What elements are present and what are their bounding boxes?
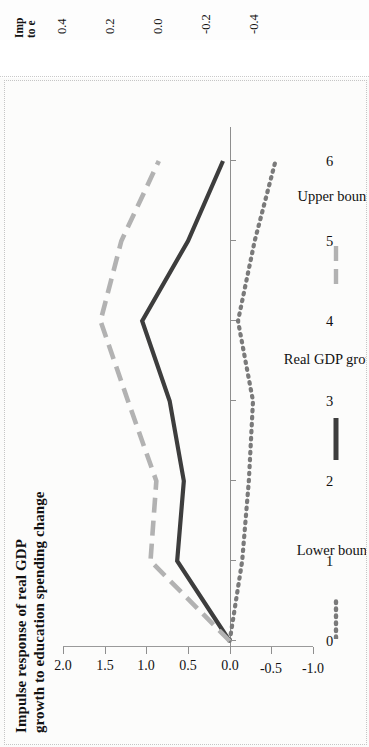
top-chart-ytick-1: 0.2	[103, 18, 118, 34]
value-axis-tick-0	[63, 647, 64, 654]
time-axis-tick-2	[230, 480, 236, 481]
legend-label-0: Lower bound	[327, 511, 344, 589]
chart-title-line2: growth to education spending change	[31, 491, 49, 733]
value-axis-tick-2	[146, 647, 147, 654]
value-axis-label-text-5: -0.5	[260, 661, 282, 677]
time-axis-tick-6	[230, 160, 236, 161]
top-chart-ytick-0: 0.4	[55, 18, 70, 34]
main-chart-figure: Impulse response of real GDP growth to e…	[4, 80, 367, 745]
time-axis-tick-1	[230, 560, 236, 561]
value-axis-label-text-2: 1.0	[138, 659, 156, 675]
value-axis-label-text-0: 2.0	[54, 659, 72, 675]
top-cropped-chart: Imp to e 0.40.20.0-0.2-0.4	[0, 0, 369, 41]
top-chart-inner: Imp to e 0.40.20.0-0.2-0.4	[0, 0, 369, 40]
time-axis-tick-3	[230, 400, 236, 401]
series-layer	[63, 127, 313, 647]
time-axis-tick-0	[230, 640, 236, 641]
top-chart-ytick-4: -0.4	[247, 14, 262, 34]
value-axis-tick-1	[105, 647, 106, 654]
page-divider	[0, 76, 369, 77]
top-chart-title-line1: Imp	[13, 18, 26, 38]
top-chart-ytick-2: 0.0	[151, 18, 166, 34]
value-axis-label-4: 0.0	[222, 658, 238, 676]
rotated-chart-stage: Impulse response of real GDP growth to e…	[9, 91, 361, 739]
series-line-upper-bound	[101, 161, 230, 641]
legend-item-lower-bound: Lower bound	[327, 511, 344, 639]
plot-area: 2.01.51.00.50.0-0.5-1.00123456	[63, 127, 313, 647]
top-chart-ytick-3: -0.2	[199, 14, 214, 34]
value-axis-tick-4	[230, 647, 231, 654]
chart-title: Impulse response of real GDP growth to e…	[13, 491, 48, 733]
value-axis-tick-5	[271, 647, 272, 654]
page-gap	[0, 40, 369, 78]
legend-swatch-0	[332, 595, 340, 639]
value-axis-tick-6	[313, 647, 314, 654]
value-axis-label-text-4: 0.0	[221, 659, 239, 675]
value-axis-label-1: 1.5	[97, 658, 113, 676]
value-axis-label-5: -0.5	[263, 658, 279, 680]
legend-label-1: Real GDP growth	[327, 308, 344, 411]
legend-label-text-2: Upper bound	[297, 188, 367, 205]
page-canvas: Imp to e 0.40.20.0-0.2-0.4 Impulse respo…	[0, 0, 369, 747]
legend-swatch-2	[332, 241, 340, 285]
value-axis-label-text-3: 0.5	[179, 659, 197, 675]
legend-item-upper-bound: Upper bound	[327, 159, 344, 285]
value-axis-label-2: 1.0	[138, 658, 154, 676]
series-line-lower-bound	[230, 161, 276, 641]
value-axis-label-3: 0.5	[180, 658, 196, 676]
value-axis-label-0: 2.0	[55, 658, 71, 676]
value-axis-tick-3	[188, 647, 189, 654]
value-axis-label-text-1: 1.5	[96, 659, 114, 675]
legend-item-real-gdp-growth: Real GDP growth	[327, 308, 344, 461]
chart-legend: Lower boundReal GDP growthUpper bound	[325, 127, 351, 647]
value-axis-label-text-6: -1.0	[302, 661, 324, 677]
time-axis-tick-5	[230, 240, 236, 241]
legend-swatch-1	[332, 417, 340, 461]
time-axis-tick-4	[230, 320, 236, 321]
top-chart-title: Imp to e	[2, 0, 46, 41]
value-axis-label-6: -1.0	[305, 658, 321, 680]
chart-title-line1: Impulse response of real GDP	[13, 491, 31, 733]
legend-label-text-1: Real GDP growth	[284, 351, 367, 368]
legend-label-text-0: Lower bound	[297, 542, 367, 559]
top-chart-title-line2: to e	[25, 20, 38, 38]
legend-label-2: Upper bound	[327, 159, 344, 235]
